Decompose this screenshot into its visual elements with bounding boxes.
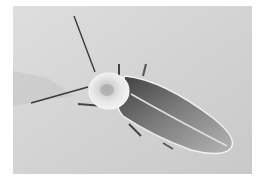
insect-photo (13, 6, 252, 174)
firefly-illustration (13, 6, 252, 174)
